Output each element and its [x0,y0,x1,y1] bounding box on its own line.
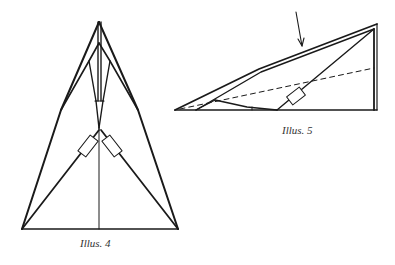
illus-5-drawing [175,12,377,110]
tape-left [78,135,98,157]
keel-left [89,61,96,101]
outer-right-edge [99,22,178,229]
outer-left-edge [22,22,99,229]
tape-side [287,87,306,105]
keel-to-center-right [99,101,103,128]
keel-to-center-left [96,101,99,128]
tape-right [102,135,122,157]
illus-5-caption: Illus. 5 [282,124,313,136]
illus-4-caption: Illus. 4 [80,237,111,249]
keel-right [103,61,110,101]
inner-right-fold [99,43,138,110]
inner-left-fold [61,43,99,110]
lower-wing-fold [215,100,277,110]
diagram-canvas [0,0,395,265]
top-edge-inner [196,29,374,110]
down-arrow-icon [296,12,304,46]
illus-4-drawing [22,22,178,229]
dashed-fold-line [180,68,374,109]
